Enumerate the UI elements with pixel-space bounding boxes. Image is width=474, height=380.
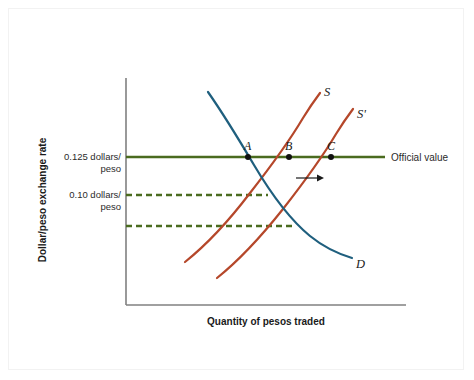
point-label-a: A [243, 139, 252, 153]
shift-arrow-head-icon [317, 175, 324, 182]
curve-label-d: D [355, 257, 365, 271]
curve-label-s-prime: S' [357, 107, 366, 121]
curve-label-s: S [324, 85, 331, 99]
point-label-b: B [285, 139, 293, 153]
point-label-c: C [327, 139, 336, 153]
point-dot-b [286, 154, 292, 160]
point-dot-a [245, 154, 251, 160]
y-tick-label-010-line1: 0.10 dollars/ [69, 189, 121, 200]
point-dot-c [328, 154, 334, 160]
y-tick-label-0125-line2: peso [100, 163, 121, 174]
y-tick-label-0125-line1: 0.125 dollars/ [64, 151, 121, 162]
y-axis-title: Dollar/peso exchange rate [37, 137, 48, 262]
y-tick-label-010-line2: peso [100, 201, 121, 212]
demand-curve-d [208, 92, 352, 258]
exchange-rate-chart: A B C S S' D Official value 0.125 dollar… [0, 0, 474, 380]
official-value-label: Official value [391, 152, 449, 163]
supply-curve-s-prime [217, 109, 353, 278]
x-axis-title: Quantity of pesos traded [207, 316, 325, 327]
